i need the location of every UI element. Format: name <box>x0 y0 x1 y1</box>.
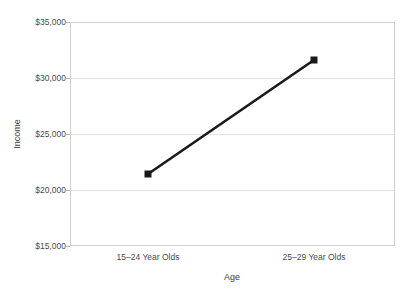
data-point-marker <box>311 57 318 64</box>
line-chart: Income $35,000 $30,000 $25,000 $20,000 $… <box>0 0 414 293</box>
plot-area <box>70 22 395 246</box>
data-point-marker <box>145 171 152 178</box>
x-tick-label: 25–29 Year Olds <box>283 252 346 263</box>
y-tick-label: $35,000 <box>35 17 66 27</box>
x-tick-label: 15–24 Year Olds <box>117 252 180 263</box>
y-tick-label: $15,000 <box>35 241 66 251</box>
y-tick-mark <box>65 246 70 247</box>
gridline <box>71 134 394 135</box>
gridline <box>71 190 394 191</box>
x-axis-title: Age <box>224 272 240 282</box>
y-axis-title: Income <box>12 119 22 149</box>
y-tick-label: $25,000 <box>35 129 66 139</box>
y-tick-label: $30,000 <box>35 73 66 83</box>
y-axis-title-container: Income <box>10 0 24 293</box>
gridline <box>71 78 394 79</box>
y-tick-label: $20,000 <box>35 185 66 195</box>
